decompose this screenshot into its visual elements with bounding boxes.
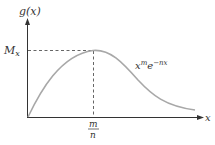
diagram: g(x) x Mx m n xme−nx: [0, 0, 215, 145]
curve-label: xme−nx: [135, 59, 168, 71]
y-axis-arrow-icon: [25, 18, 30, 25]
y-axis-label: g(x): [19, 5, 41, 18]
x-axis-label: x: [205, 112, 211, 123]
peak-label-numerator: m: [89, 119, 98, 129]
curve: [28, 50, 195, 117]
x-axis-arrow-icon: [197, 115, 204, 120]
max-label: Mx: [3, 44, 20, 58]
peak-label-denominator: n: [90, 130, 96, 140]
